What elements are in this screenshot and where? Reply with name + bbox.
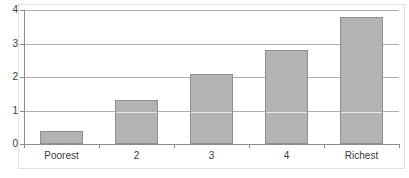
bar-2[interactable] xyxy=(115,100,158,144)
x-tick-label-4: 4 xyxy=(284,150,290,162)
x-tick-label-2: 2 xyxy=(134,150,140,162)
y-axis-tick-labels: 4 3 2 1 0 xyxy=(0,0,18,178)
bar-gridline-overlay xyxy=(191,112,232,113)
x-tick-mark-3 xyxy=(249,144,250,148)
bar-gridline-overlay xyxy=(341,112,382,113)
x-tick-label-3: 3 xyxy=(209,150,215,162)
bars-layer xyxy=(24,10,399,144)
bar-gridline-overlay xyxy=(266,112,307,113)
bar-poorest[interactable] xyxy=(40,131,83,144)
y-tick-mark-1 xyxy=(20,111,24,112)
bar-richest[interactable] xyxy=(340,17,383,144)
y-tick-label-3: 3 xyxy=(12,39,18,49)
x-tick-label-poorest: Poorest xyxy=(44,150,78,162)
x-tick-mark-4 xyxy=(324,144,325,148)
x-axis-line xyxy=(24,144,399,145)
x-tick-mark-5 xyxy=(399,144,400,148)
x-tick-label-richest: Richest xyxy=(345,150,378,162)
bar-4[interactable] xyxy=(265,50,308,144)
y-tick-label-0: 0 xyxy=(12,139,18,149)
x-tick-mark-1 xyxy=(99,144,100,148)
y-axis-line xyxy=(24,10,25,145)
x-tick-mark-0 xyxy=(24,144,25,148)
y-tick-mark-2 xyxy=(20,77,24,78)
x-tick-mark-2 xyxy=(174,144,175,148)
bar-gridline-overlay xyxy=(116,112,157,113)
y-tick-label-2: 2 xyxy=(12,72,18,82)
y-tick-mark-3 xyxy=(20,44,24,45)
bar-chart-figure: 4 3 2 1 0 Poorest 2 3 4 Richest xyxy=(0,0,409,178)
y-tick-label-1: 1 xyxy=(12,106,18,116)
y-tick-label-4: 4 xyxy=(12,5,18,15)
y-tick-mark-4 xyxy=(20,10,24,11)
bar-3[interactable] xyxy=(190,74,233,144)
